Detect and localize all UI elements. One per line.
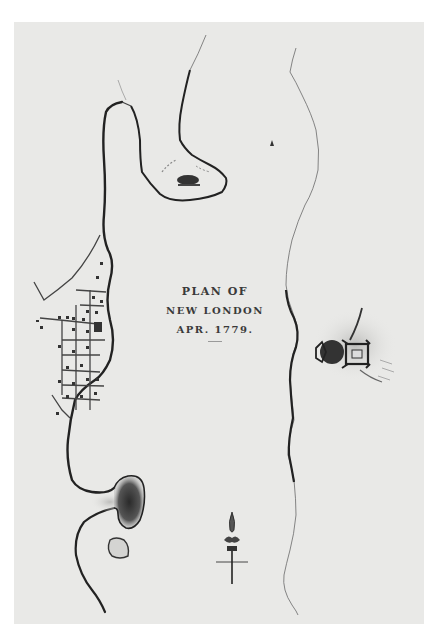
compass-rose-icon xyxy=(216,512,248,584)
marker-dot xyxy=(270,140,274,146)
title-line-2: NEW LONDON xyxy=(145,306,285,316)
east-shoreline xyxy=(284,48,319,615)
east-fort xyxy=(313,308,397,382)
title-underline xyxy=(208,341,222,342)
small-island xyxy=(108,538,128,558)
west-shoreline xyxy=(68,80,132,612)
town-buildings xyxy=(36,262,103,415)
southern-point xyxy=(90,476,145,529)
north-peninsula xyxy=(131,35,227,200)
title-line-3: APR. 1779. xyxy=(145,325,285,335)
map-title: PLAN OF NEW LONDON APR. 1779. xyxy=(145,286,285,342)
title-line-1: PLAN OF xyxy=(145,286,285,297)
